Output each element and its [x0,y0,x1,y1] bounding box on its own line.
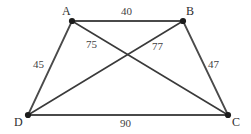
diagonal-label-bd: 75 [86,39,97,50]
vertex-dot-d [25,112,31,118]
geometry-figure: A B C D 40 45 47 90 75 77 [0,0,251,134]
vertex-label-d: D [14,116,23,128]
vertex-label-b: B [186,5,194,17]
vertex-dot-a [69,18,75,24]
diagonal-bd [28,21,183,115]
edge-label-ad: 45 [33,59,44,70]
diagonal-label-ac: 77 [152,41,163,52]
edge-label-ab: 40 [121,6,132,17]
vertex-label-c: C [232,116,240,128]
vertex-label-a: A [62,5,71,17]
vertex-dot-c [225,112,231,118]
edge-label-dc: 90 [120,118,131,129]
edge-label-bc: 47 [208,59,219,70]
vertex-dot-b [180,18,186,24]
